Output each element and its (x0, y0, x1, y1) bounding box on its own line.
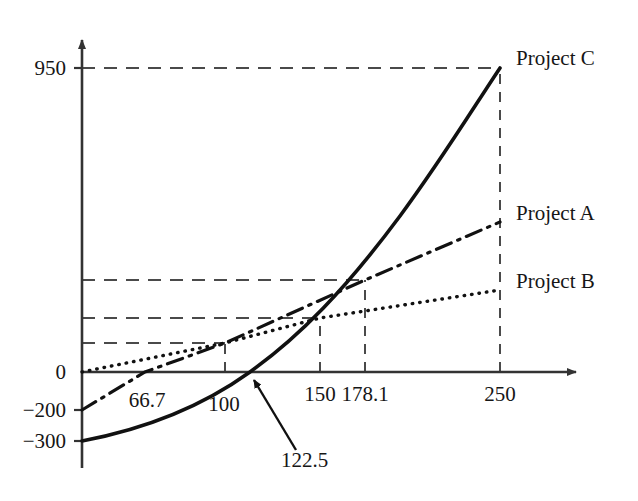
y-tick-label-neg300: −300 (0, 431, 66, 452)
annotation-label-122-5: 122.5 (281, 450, 328, 471)
reference-lines (82, 68, 500, 372)
series-line-project-b (82, 290, 500, 372)
y-tick-label-0: 0 (8, 362, 66, 383)
x-tick-label-100: 100 (192, 394, 256, 415)
npv-profile-chart: 950 0 −200 −300 66.7 100 150 178.1 250 P… (0, 0, 638, 501)
series-label-project-a: Project A (516, 203, 595, 224)
x-tick-label-66-7: 66.7 (112, 390, 182, 411)
x-tick-label-250: 250 (468, 384, 532, 405)
series-label-project-c: Project C (516, 48, 595, 69)
chart-canvas (0, 0, 638, 501)
series-line-project-a (82, 222, 500, 410)
x-tick-label-178-1: 178.1 (325, 384, 405, 405)
y-tick-label-950: 950 (8, 58, 66, 79)
y-tick-label-neg200: −200 (0, 400, 66, 421)
series-label-project-b: Project B (516, 271, 595, 292)
